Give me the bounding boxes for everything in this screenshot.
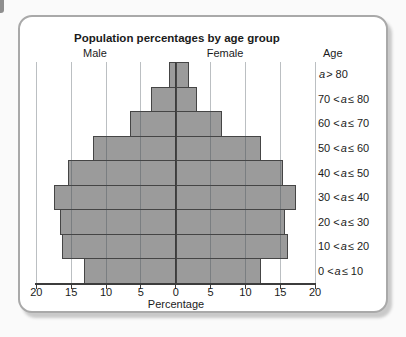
axis-tick-label: 10 [94,286,118,298]
axis-tick-label: 15 [268,286,292,298]
center-axis-line [175,62,176,283]
axis-tick-label: 0 [164,286,188,298]
male-bar [130,111,176,137]
gridline [315,62,316,283]
male-bar [151,87,177,113]
female-bar [176,160,283,186]
gridline [140,62,141,283]
female-bar [176,62,190,88]
male-bar [54,185,177,211]
page-background: Population percentages by age group Male… [0,0,406,337]
gridline [36,62,37,283]
age-group-label: 0 < a ≤ 10 [318,259,390,284]
female-bar [176,234,289,260]
female-bar [176,185,296,211]
age-labels-column: a > 80 70 < a ≤ 80 60 < a ≤ 70 50 < a ≤ … [318,62,390,283]
age-group-label: 20 < a ≤ 30 [318,209,390,234]
axis-tick-label: 5 [199,286,223,298]
age-group-label: 30 < a ≤ 40 [318,185,390,210]
axis-tick-label: 10 [233,286,257,298]
gridline [210,62,211,283]
male-bar [68,160,176,186]
age-group-label: 60 < a ≤ 70 [318,111,390,136]
male-bar [84,258,177,284]
axis-tick-label: 20 [303,286,327,298]
age-group-label: a > 80 [318,62,390,87]
chart-card: Population percentages by age group Male… [18,15,388,313]
age-group-label: 10 < a ≤ 20 [318,234,390,259]
cutoff-element-fragment [0,0,4,13]
gridline [106,62,107,283]
male-bar [62,234,177,260]
female-bar [176,111,222,137]
age-group-label: 70 < a ≤ 80 [318,87,390,112]
female-bar [176,87,197,113]
female-bar [176,258,261,284]
axis-tick-label: 20 [24,286,48,298]
age-group-label: 50 < a ≤ 60 [318,136,390,161]
age-group-label: 40 < a ≤ 50 [318,160,390,185]
gridline [280,62,281,283]
axis-tick-label: 15 [59,286,83,298]
female-bar [176,209,286,235]
female-bar [176,136,261,162]
male-bar [60,209,177,235]
axis-tick-label: 5 [129,286,153,298]
gridline [245,62,246,283]
x-axis-label: Percentage [131,298,221,310]
gridline [71,62,72,283]
